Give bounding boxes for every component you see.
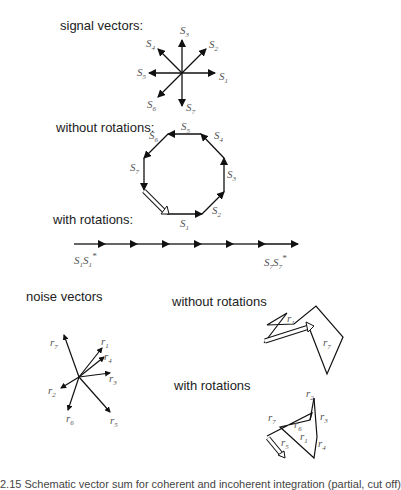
svg-text:r2: r2 — [48, 384, 56, 399]
svg-text:r6: r6 — [66, 412, 74, 427]
svg-text:r6: r6 — [294, 418, 302, 433]
svg-text:r5: r5 — [110, 414, 118, 429]
noise-sum-with-rotations — [267, 398, 317, 458]
svg-text:S3: S3 — [180, 24, 190, 39]
svg-text:r3: r3 — [109, 372, 117, 387]
svg-text:r7: r7 — [268, 411, 276, 426]
svg-text:S1S1*: S1S1* — [74, 251, 97, 269]
svg-text:S4: S4 — [214, 129, 224, 144]
svg-text:r2: r2 — [306, 387, 314, 402]
svg-text:S7: S7 — [186, 101, 196, 116]
svg-text:S3: S3 — [227, 168, 237, 183]
svg-text:S2: S2 — [212, 204, 222, 219]
svg-text:r3: r3 — [320, 410, 328, 425]
signal-sum-octagon — [144, 134, 224, 214]
svg-text:r4: r4 — [104, 350, 112, 365]
noise-sum-without-rotations — [264, 306, 343, 374]
svg-text:S6: S6 — [149, 129, 159, 144]
svg-text:S7S7*: S7S7* — [264, 253, 287, 271]
svg-text:r5: r5 — [281, 436, 289, 451]
signal-vectors-star — [149, 40, 215, 106]
svg-text:S7: S7 — [130, 161, 140, 176]
svg-text:S4: S4 — [146, 37, 156, 52]
svg-text:r7: r7 — [323, 336, 331, 351]
svg-text:S1: S1 — [219, 70, 228, 85]
svg-text:r4: r4 — [318, 437, 326, 452]
svg-text:S5: S5 — [181, 120, 191, 135]
svg-text:S5: S5 — [137, 66, 147, 81]
svg-text:r1: r1 — [101, 335, 109, 350]
svg-text:S1: S1 — [180, 217, 189, 232]
svg-text:r7: r7 — [50, 336, 58, 351]
svg-text:S6: S6 — [147, 98, 157, 113]
figure-caption: 2.15 Schematic vector sum for coherent a… — [0, 478, 401, 490]
svg-text:S2: S2 — [209, 38, 219, 53]
